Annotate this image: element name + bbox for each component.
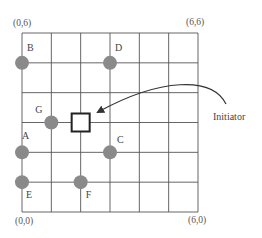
corner-label-top-left: (0,6) — [13, 18, 31, 29]
node-a — [15, 145, 29, 159]
node-label-e: E — [26, 189, 32, 200]
sensor-nodes: BDGACEF — [15, 42, 124, 200]
grid-diagram: BDGACEF Initiator (0,6) (6,6) (0,0) (6,0… — [0, 0, 262, 238]
node-label-g: G — [35, 104, 42, 115]
node-b — [15, 56, 29, 70]
node-label-d: D — [115, 42, 122, 53]
corner-label-bottom-right: (6,0) — [188, 215, 206, 226]
corner-label-top-right: (6,6) — [186, 17, 204, 28]
node-label-b: B — [27, 42, 34, 53]
node-c — [103, 145, 117, 159]
node-g — [44, 116, 58, 130]
node-label-c: C — [117, 134, 124, 145]
node-d — [103, 56, 117, 70]
node-f — [74, 175, 88, 189]
initiator-arrow — [98, 85, 226, 112]
node-label-a: A — [22, 130, 30, 141]
initiator-label: Initiator — [213, 111, 246, 122]
corner-label-bottom-left: (0,0) — [15, 216, 33, 227]
initiator-square — [72, 114, 90, 132]
node-e — [15, 175, 29, 189]
node-label-f: F — [86, 189, 92, 200]
